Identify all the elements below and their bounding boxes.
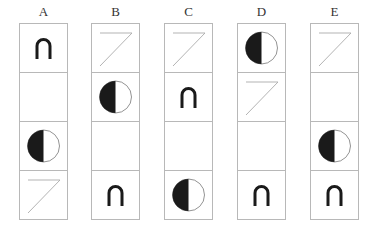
arch-icon xyxy=(20,24,67,72)
z-line-icon xyxy=(92,24,139,72)
half-filled-circle-icon xyxy=(311,122,358,170)
cell-z-line xyxy=(20,170,67,219)
cell-empty xyxy=(238,121,285,170)
arch-icon xyxy=(311,171,358,219)
cell-z-line xyxy=(92,24,139,72)
cell-half-circle xyxy=(165,170,212,219)
cell-stack xyxy=(237,23,286,220)
cell-z-line xyxy=(165,24,212,72)
cell-half-circle xyxy=(238,24,285,72)
half-filled-circle-icon xyxy=(20,122,67,170)
cell-empty xyxy=(311,72,358,121)
cell-arch xyxy=(165,72,212,121)
option-label: E xyxy=(310,4,359,20)
cell-empty xyxy=(20,72,67,121)
z-line-icon xyxy=(311,24,358,72)
cell-z-line xyxy=(238,72,285,121)
arch-icon xyxy=(165,73,212,121)
cell-arch xyxy=(92,170,139,219)
cell-empty xyxy=(92,121,139,170)
z-line-icon xyxy=(238,73,285,121)
arch-icon xyxy=(238,171,285,219)
z-line-icon xyxy=(20,171,67,219)
cell-arch xyxy=(311,170,358,219)
cell-stack xyxy=(91,23,140,220)
cell-arch xyxy=(238,170,285,219)
option-label: B xyxy=(91,4,140,20)
cell-half-circle xyxy=(20,121,67,170)
cell-half-circle xyxy=(311,121,358,170)
z-line-icon xyxy=(165,24,212,72)
cell-empty xyxy=(165,121,212,170)
arch-icon xyxy=(92,171,139,219)
half-filled-circle-icon xyxy=(238,24,285,72)
cell-stack xyxy=(164,23,213,220)
cell-arch xyxy=(20,24,67,72)
cell-half-circle xyxy=(92,72,139,121)
half-filled-circle-icon xyxy=(165,171,212,219)
cell-z-line xyxy=(311,24,358,72)
option-label: D xyxy=(237,4,286,20)
half-filled-circle-icon xyxy=(92,73,139,121)
option-label: C xyxy=(164,4,213,20)
option-label: A xyxy=(19,4,68,20)
cell-stack xyxy=(310,23,359,220)
cell-stack xyxy=(19,23,68,220)
